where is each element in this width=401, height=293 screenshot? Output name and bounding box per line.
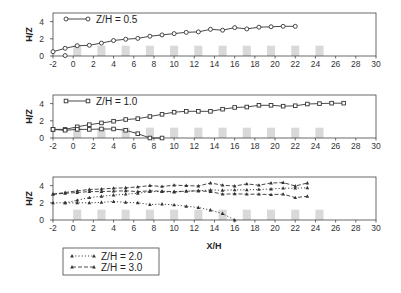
roughness-block [170, 46, 178, 56]
roughness-block [146, 46, 154, 56]
roughness-block [170, 128, 178, 138]
data-point [124, 192, 128, 195]
x-tick-label: 26 [331, 141, 341, 151]
data-point [86, 17, 90, 21]
roughness-block [315, 46, 323, 56]
y-axis-label: Z/H [24, 109, 34, 124]
data-point [160, 33, 164, 37]
roughness-block [291, 46, 299, 56]
data-point [269, 25, 273, 29]
y-tick-label: 4 [39, 17, 44, 27]
data-point [148, 115, 152, 119]
data-point [208, 27, 212, 31]
x-tick-label: -2 [49, 141, 57, 151]
roughness-block [243, 46, 251, 56]
data-point [257, 104, 261, 108]
x-tick-label: 30 [371, 223, 381, 233]
roughness-block [194, 128, 202, 138]
data-point [233, 188, 237, 191]
x-tick-label: 10 [169, 59, 179, 69]
x-tick-label: 16 [230, 223, 240, 233]
roughness-block [267, 128, 275, 138]
x-tick-label: 18 [250, 223, 260, 233]
data-point [64, 17, 68, 21]
data-point [245, 188, 249, 191]
x-tick-label: 12 [190, 223, 200, 233]
x-tick-label: 4 [111, 141, 116, 151]
legend: Z/H = 1.0 [64, 96, 138, 107]
y-axis-label: Z/H [24, 191, 34, 206]
roughness-block [267, 210, 275, 220]
data-point [136, 36, 140, 40]
x-tick-label: 20 [270, 141, 280, 151]
data-point [148, 136, 152, 140]
x-tick-label: 20 [270, 223, 280, 233]
data-point [63, 54, 67, 58]
x-axis-label: X/H [206, 241, 221, 251]
x-tick-label: 18 [250, 141, 260, 151]
x-tick-label: 14 [210, 141, 220, 151]
data-point [269, 104, 273, 108]
series-2 [63, 54, 67, 58]
roughness-block [291, 210, 299, 220]
panel-1: -2024681012141618202224262830024Z/HZ/H =… [24, 13, 381, 69]
data-point [281, 104, 285, 108]
roughness-block [315, 210, 323, 220]
y-tick-label: 2 [39, 34, 44, 44]
y-tick-label: 0 [39, 51, 44, 61]
data-point [112, 127, 116, 131]
data-point [112, 193, 116, 196]
x-tick-label: 22 [291, 141, 301, 151]
x-tick-label: -2 [49, 59, 57, 69]
x-tick-label: 30 [371, 59, 381, 69]
data-point [51, 50, 55, 54]
data-point [196, 30, 200, 34]
roughness-block [97, 46, 105, 56]
x-tick-label: 2 [91, 141, 96, 151]
x-tick-label: 6 [131, 223, 136, 233]
data-point [318, 102, 322, 106]
data-point [63, 128, 67, 132]
data-point [100, 121, 104, 125]
roughness-block [315, 128, 323, 138]
y-tick-label: 4 [39, 99, 44, 109]
data-point [112, 39, 116, 43]
x-tick-label: 28 [351, 59, 361, 69]
x-tick-label: 24 [311, 223, 321, 233]
roughness-block [219, 128, 227, 138]
x-tick-label: 14 [210, 59, 220, 69]
data-point [269, 181, 273, 184]
data-point [209, 181, 213, 184]
roughness-block [73, 210, 81, 220]
data-point [245, 27, 249, 31]
roughness-block [243, 128, 251, 138]
legend-label: Z/H = 1.0 [96, 96, 138, 107]
x-tick-label: 30 [371, 141, 381, 151]
data-point [281, 24, 285, 28]
y-tick-label: 2 [39, 116, 44, 126]
panel-3: -2024681012141618202224262830024Z/HZ/H =… [24, 177, 381, 275]
data-point [233, 26, 237, 30]
roughness-block [219, 46, 227, 56]
x-tick-label: 0 [71, 59, 76, 69]
roughness-block [146, 210, 154, 220]
x-tick-label: 0 [71, 141, 76, 151]
x-tick-label: 12 [190, 141, 200, 151]
data-point [88, 123, 92, 127]
x-tick-label: 26 [331, 223, 341, 233]
data-point [88, 201, 92, 204]
data-point [184, 110, 188, 114]
data-point [100, 127, 104, 131]
data-point [75, 128, 79, 132]
data-point [293, 24, 297, 28]
data-point [148, 203, 152, 206]
data-point [257, 25, 261, 29]
x-tick-label: 22 [291, 223, 301, 233]
data-point [63, 46, 67, 50]
roughness-block [122, 46, 130, 56]
x-tick-label: 26 [331, 59, 341, 69]
data-point [86, 99, 90, 103]
roughness-block [194, 46, 202, 56]
data-point [221, 107, 225, 111]
data-point [342, 101, 346, 105]
